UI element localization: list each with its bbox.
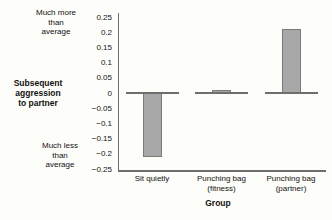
y-tick-label: −0.1: [78, 119, 112, 128]
x-category-label: Punching bag (fitness): [182, 174, 262, 193]
y-tick-label: 0.1: [78, 58, 112, 67]
data-bar: [143, 93, 162, 157]
y-tick-label: 0.2: [78, 28, 112, 37]
x-axis-title: Group: [118, 198, 318, 208]
y-tick-label: −0.15: [78, 134, 112, 143]
x-category-label: Sit quietly: [112, 174, 192, 184]
data-bar: [282, 29, 301, 93]
y-tick-label: 0.05: [78, 73, 112, 82]
x-category-label: Punching bag (partner): [251, 174, 331, 193]
y-tick-label: −0.2: [78, 149, 112, 158]
y-axis-title: Subsequent aggression to partner: [6, 78, 70, 108]
y-tick-label: 0.15: [78, 43, 112, 52]
x-axis-line: [118, 170, 326, 172]
y-tick-label: 0: [78, 89, 112, 98]
y-tick-label: 0.25: [78, 13, 112, 22]
bar-chart-figure: Much more than average Subsequent aggres…: [0, 0, 332, 220]
zero-baseline-segment: [126, 92, 179, 94]
y-axis-line: [118, 13, 119, 171]
y-tick-label: −0.05: [78, 104, 112, 113]
zero-baseline-segment: [265, 92, 318, 94]
y-tick-label: −0.25: [78, 165, 112, 174]
zero-baseline-segment: [195, 92, 248, 94]
